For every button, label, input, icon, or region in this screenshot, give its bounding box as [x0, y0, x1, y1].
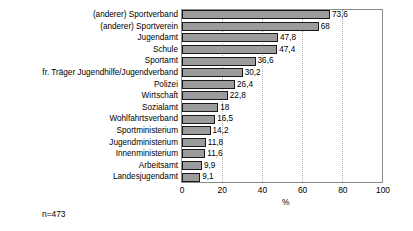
- chart-row: Wohlfahrtsverband16,5: [0, 113, 413, 125]
- bar-value-label: 16,5: [217, 113, 233, 125]
- bar-rows: (anderer) Sportverband73,6(anderer) Spor…: [0, 9, 413, 183]
- x-tick-label: 40: [258, 185, 267, 195]
- bar: [182, 103, 218, 112]
- category-label: Wohlfahrtsverband: [109, 113, 178, 125]
- chart-row: Wirtschaft22,8: [0, 90, 413, 102]
- x-tick-label: 20: [218, 185, 227, 195]
- bar: [182, 80, 235, 89]
- bar: [182, 10, 330, 19]
- category-label: Schule: [153, 44, 178, 56]
- bar-value-label: 26,4: [237, 79, 253, 91]
- bar-value-label: 36,6: [258, 55, 274, 67]
- category-label: fr. Träger Jugendhilfe/Jugendverband: [42, 67, 178, 79]
- x-axis-title: %: [282, 197, 289, 207]
- bar-value-label: 73,6: [332, 9, 348, 21]
- bar-value-label: 11,8: [208, 137, 223, 149]
- chart-row: Landesjugendamt9,1: [0, 171, 413, 183]
- category-label: (anderer) Sportverein: [100, 21, 178, 33]
- bar-value-label: 22,8: [230, 90, 246, 102]
- category-label: Sozialamt: [142, 102, 178, 114]
- category-label: Innenministerium: [116, 148, 178, 160]
- bar: [182, 45, 277, 54]
- category-label: Landesjugendamt: [113, 171, 178, 183]
- category-label: Jugendamt: [137, 32, 178, 44]
- bar-chart-screenshot: (anderer) Sportverband73,6(anderer) Spor…: [0, 0, 413, 231]
- bar: [182, 149, 205, 158]
- chart-row: Jugendamt47,8: [0, 32, 413, 44]
- bar: [182, 126, 211, 135]
- chart-row: Sozialamt18: [0, 102, 413, 114]
- bar-value-label: 18: [220, 102, 229, 114]
- bar-value-label: 9,1: [202, 171, 213, 183]
- bar-value-label: 14,2: [213, 125, 229, 137]
- category-label: Sportministerium: [117, 125, 178, 137]
- chart-row: (anderer) Sportverband73,6: [0, 9, 413, 21]
- bar: [182, 161, 202, 170]
- chart-row: Sportministerium14,2: [0, 125, 413, 137]
- x-tick-label: 80: [338, 185, 347, 195]
- category-label: Sportamt: [145, 55, 178, 67]
- bar: [182, 91, 228, 100]
- bar: [182, 68, 243, 77]
- category-label: Polizei: [154, 79, 178, 91]
- category-label: Wirtschaft: [142, 90, 178, 102]
- chart-row: Arbeitsamt9,9: [0, 160, 413, 172]
- bar-value-label: 30,2: [245, 67, 261, 79]
- bar: [182, 22, 319, 31]
- bar-value-label: 68: [321, 21, 330, 33]
- category-label: (anderer) Sportverband: [93, 9, 178, 21]
- chart-row: Polizei26,4: [0, 79, 413, 91]
- bar-value-label: 47,8: [280, 32, 296, 44]
- chart-row: Innenministerium11,6: [0, 148, 413, 160]
- x-tick-label: 0: [180, 185, 185, 195]
- bar-value-label: 47,4: [279, 44, 295, 56]
- category-label: Arbeitsamt: [139, 160, 178, 172]
- chart-row: Sportamt36,6: [0, 55, 413, 67]
- x-tick-label: 60: [298, 185, 307, 195]
- chart-row: Schule47,4: [0, 44, 413, 56]
- chart-row: fr. Träger Jugendhilfe/Jugendverband30,2: [0, 67, 413, 79]
- bar: [182, 173, 200, 182]
- bar: [182, 57, 256, 66]
- bar: [182, 115, 215, 124]
- category-label: Jugendministerium: [109, 137, 178, 149]
- chart-row: (anderer) Sportverein68: [0, 21, 413, 33]
- x-tick-label: 100: [376, 185, 390, 195]
- chart-row: Jugendministerium11,8: [0, 137, 413, 149]
- sample-size-note: n=473: [42, 209, 66, 219]
- bar: [182, 138, 206, 147]
- bar: [182, 33, 278, 42]
- bar-value-label: 9,9: [204, 160, 215, 172]
- bar-value-label: 11,6: [207, 148, 222, 160]
